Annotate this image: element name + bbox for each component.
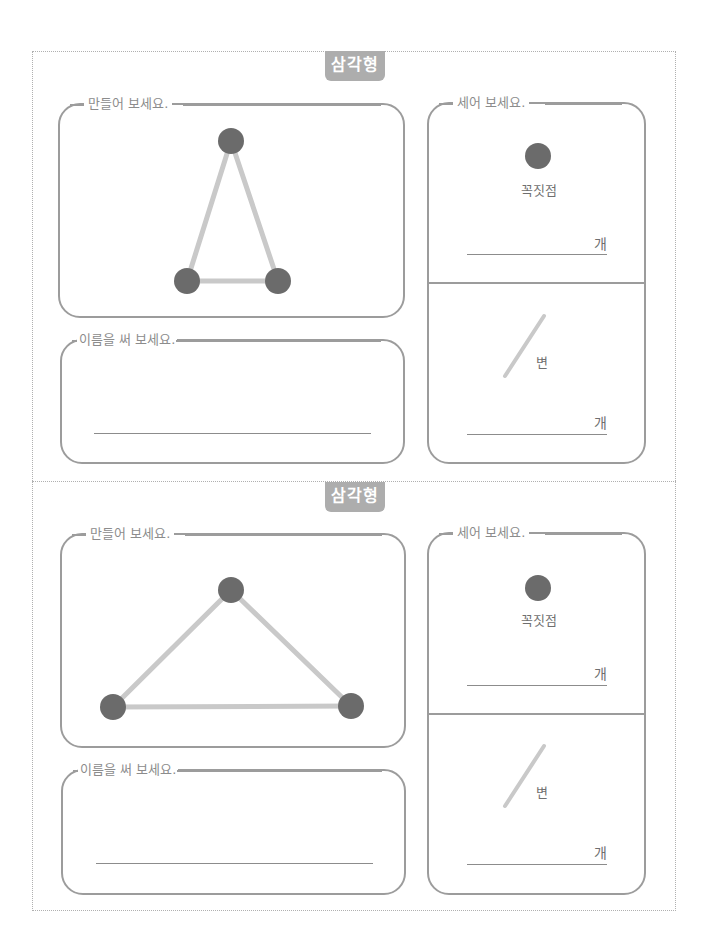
vertex-icon: [524, 574, 554, 604]
card-divider: [429, 713, 644, 715]
vertex-dot: [218, 577, 244, 603]
vertex-unit: 개: [594, 663, 607, 683]
name-card-legend: 이름을 써 보세요.: [78, 760, 178, 780]
count-card-legend: 세어 보세요.: [453, 523, 529, 543]
name-answer-line[interactable]: [96, 863, 373, 864]
side-unit: 개: [594, 842, 607, 862]
side-answer-line[interactable]: [467, 864, 607, 865]
name-card: 이름을 써 보세요.: [61, 769, 406, 895]
legend-line: [545, 533, 622, 535]
side-label: 변: [532, 782, 552, 801]
vertex-answer-line[interactable]: [467, 685, 607, 686]
vertex-label: 꼭짓점: [499, 610, 579, 629]
legend-line: [177, 770, 382, 772]
edge-icon: [499, 742, 559, 812]
vertex-dot: [338, 693, 364, 719]
count-card: 세어 보세요. 꼭짓점 개 변 개: [427, 532, 646, 895]
legend-line: [439, 533, 453, 535]
vertex-dot: [100, 694, 126, 720]
